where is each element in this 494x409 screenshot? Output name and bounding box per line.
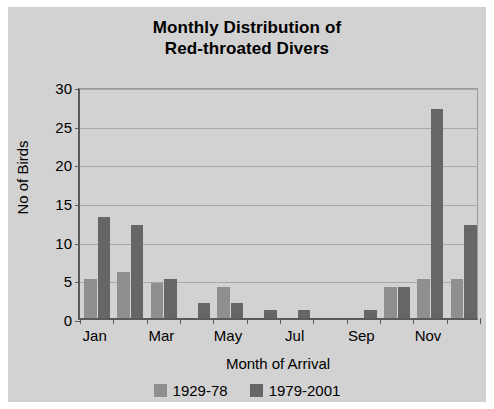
bar xyxy=(117,272,130,318)
bar xyxy=(131,225,144,318)
bar xyxy=(151,283,164,318)
chart-title-line-2: Red-throated Divers xyxy=(8,38,486,59)
bar xyxy=(84,279,97,318)
bar xyxy=(464,225,477,318)
legend-label: 1979-2001 xyxy=(269,382,341,399)
x-axis-tick-label: Mar xyxy=(148,327,174,344)
x-axis-tick-label: Jan xyxy=(83,327,107,344)
y-axis-title: No of Birds xyxy=(14,108,31,248)
bar xyxy=(298,310,311,318)
bar-group xyxy=(313,89,346,318)
bar xyxy=(451,279,464,318)
x-axis-tick xyxy=(313,318,314,324)
chart-legend: 1929-781979-2001 xyxy=(8,382,486,399)
bar-group xyxy=(113,89,146,318)
bar xyxy=(364,310,377,318)
legend-label: 1929-78 xyxy=(173,382,228,399)
x-axis-tick xyxy=(147,318,148,324)
x-axis-tick xyxy=(247,318,248,324)
bar xyxy=(398,287,411,318)
x-axis-tick xyxy=(280,318,281,324)
x-axis-tick-label: Nov xyxy=(415,327,442,344)
bar-group xyxy=(180,89,213,318)
legend-swatch xyxy=(250,384,263,397)
y-axis-tick-label: 5 xyxy=(42,273,72,290)
y-axis-tick-labels: 051015202530 xyxy=(40,88,72,320)
x-axis-tick xyxy=(347,318,348,324)
y-axis-tick-label: 0 xyxy=(42,312,72,329)
bar xyxy=(98,217,111,318)
legend-item: 1929-78 xyxy=(154,382,228,399)
bar-group xyxy=(80,89,113,318)
bar-group xyxy=(247,89,280,318)
chart-title-line-1: Monthly Distribution of xyxy=(8,17,486,38)
bar-group xyxy=(447,89,480,318)
bar-group xyxy=(147,89,180,318)
bar xyxy=(417,279,430,318)
legend-item: 1979-2001 xyxy=(250,382,341,399)
bar xyxy=(198,303,211,318)
x-axis-tick xyxy=(380,318,381,324)
x-axis-tick xyxy=(213,318,214,324)
bar-group xyxy=(347,89,380,318)
y-axis-tick-label: 20 xyxy=(42,157,72,174)
bar xyxy=(431,109,444,318)
bar-group xyxy=(280,89,313,318)
y-axis-tick-label: 25 xyxy=(42,118,72,135)
x-axis-tick xyxy=(447,318,448,324)
bar xyxy=(217,287,230,318)
plot-area xyxy=(78,88,478,320)
x-axis-tick-label: Sep xyxy=(348,327,375,344)
y-axis-tick-label: 15 xyxy=(42,196,72,213)
bar xyxy=(384,287,397,318)
chart-container: Monthly Distribution of Red-throated Div… xyxy=(8,7,486,402)
x-axis-title: Month of Arrival xyxy=(78,355,478,372)
y-axis-tick-label: 30 xyxy=(42,80,72,97)
x-axis-tick-label: May xyxy=(214,327,242,344)
chart-title: Monthly Distribution of Red-throated Div… xyxy=(8,17,486,59)
bar-group xyxy=(380,89,413,318)
x-axis-tick xyxy=(180,318,181,324)
x-axis-tick xyxy=(413,318,414,324)
x-axis-tick-label: Jul xyxy=(285,327,304,344)
bar xyxy=(231,303,244,318)
bar xyxy=(164,279,177,318)
x-axis-tick xyxy=(80,318,81,324)
x-axis-tick xyxy=(113,318,114,324)
bar-group xyxy=(213,89,246,318)
x-axis-tick xyxy=(480,318,481,324)
x-axis-tick-labels: JanMarMayJulSepNov xyxy=(78,327,478,347)
bar xyxy=(264,310,277,318)
y-axis-tick-label: 10 xyxy=(42,234,72,251)
bar-group xyxy=(413,89,446,318)
legend-swatch xyxy=(154,384,167,397)
